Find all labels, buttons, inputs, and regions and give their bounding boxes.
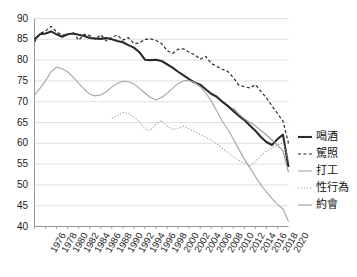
legend-item-2[interactable]: 打工 <box>298 162 356 179</box>
legend-label: 喝酒 <box>316 131 338 142</box>
legend-label: 約會 <box>316 199 338 210</box>
legend-line-icon <box>298 166 312 176</box>
legend-line-icon <box>298 183 312 193</box>
y-tick-label: 75 <box>4 76 28 86</box>
y-tick-label: 65 <box>4 118 28 128</box>
legend-item-0[interactable]: 喝酒 <box>298 128 356 145</box>
y-tick-label: 55 <box>4 159 28 169</box>
y-tick-label: 70 <box>4 97 28 107</box>
legend-label: 打工 <box>316 165 338 176</box>
y-tick-label: 80 <box>4 55 28 65</box>
legend: 喝酒駕照打工性行為約會 <box>298 128 356 213</box>
series-line-0 <box>35 31 289 167</box>
series-lines <box>35 26 289 221</box>
legend-item-1[interactable]: 駕照 <box>298 145 356 162</box>
legend-label: 性行為 <box>316 182 349 193</box>
y-tick-label: 85 <box>4 34 28 44</box>
y-tick-label: 50 <box>4 180 28 190</box>
line-chart: 4045505560657075808590 19761978198019821… <box>0 0 357 277</box>
legend-line-icon <box>298 200 312 210</box>
legend-line-icon <box>298 132 312 142</box>
axis-lines <box>35 19 289 230</box>
y-tick-label: 90 <box>4 14 28 24</box>
y-tick-label: 45 <box>4 201 28 211</box>
legend-item-4[interactable]: 約會 <box>298 196 356 213</box>
series-line-2 <box>35 67 289 221</box>
legend-label: 駕照 <box>316 148 338 159</box>
y-tick-label: 60 <box>4 138 28 148</box>
legend-line-icon <box>298 149 312 159</box>
legend-item-3[interactable]: 性行為 <box>298 179 356 196</box>
y-tick-label: 40 <box>4 222 28 232</box>
